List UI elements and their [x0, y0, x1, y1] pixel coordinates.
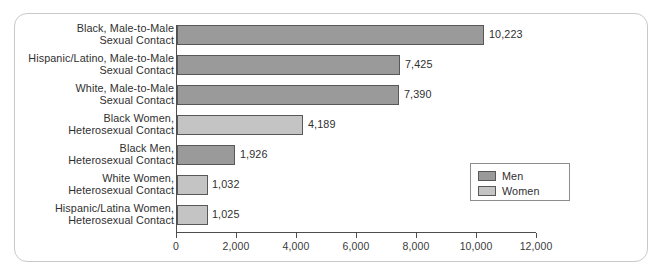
x-tick-label-0: 0: [173, 240, 179, 252]
bar-value-6: 1,025: [212, 208, 240, 220]
legend-item-women[interactable]: Women: [478, 184, 540, 198]
bar-row: Black, Male-to-Male Sexual Contact 10,22…: [0, 22, 663, 49]
bar-row: Hispanic/Latina Women, Heterosexual Cont…: [0, 202, 663, 229]
x-tick-label-6: 12,000: [520, 240, 553, 252]
bar-0[interactable]: [177, 25, 484, 45]
x-tick-2: [296, 233, 297, 238]
bar-value-1: 7,425: [405, 58, 433, 70]
plot-area: 0 2,000 4,000 6,000 8,000 10,000 12,000 …: [0, 0, 663, 277]
bar-row: Black Women, Heterosexual Contact 4,189: [0, 112, 663, 139]
x-tick-0: [176, 233, 177, 238]
category-label-3: Black Women, Heterosexual Contact: [0, 112, 174, 137]
bar-2[interactable]: [177, 85, 399, 105]
x-tick-label-2: 4,000: [283, 240, 310, 252]
category-label-6: Hispanic/Latina Women, Heterosexual Cont…: [0, 202, 174, 227]
bar-5[interactable]: [177, 175, 208, 195]
x-tick-3: [356, 233, 357, 238]
x-tick-6: [536, 233, 537, 238]
bar-value-5: 1,032: [212, 178, 240, 190]
legend-label-women: Women: [502, 185, 540, 197]
bar-4[interactable]: [177, 145, 235, 165]
bar-row: White, Male-to-Male Sexual Contact 7,390: [0, 82, 663, 109]
bar-value-4: 1,926: [240, 148, 268, 160]
bar-chart-figure: 0 2,000 4,000 6,000 8,000 10,000 12,000 …: [0, 0, 663, 277]
x-tick-4: [416, 233, 417, 238]
x-tick-5: [476, 233, 477, 238]
x-tick-1: [236, 233, 237, 238]
bar-value-0: 10,223: [489, 28, 523, 40]
legend-label-men: Men: [502, 170, 523, 182]
bar-value-2: 7,390: [404, 88, 432, 100]
bar-1[interactable]: [177, 55, 400, 75]
x-tick-label-4: 8,000: [403, 240, 430, 252]
bar-3[interactable]: [177, 115, 303, 135]
legend-swatch-men-icon: [478, 171, 496, 181]
legend-item-men[interactable]: Men: [478, 169, 523, 183]
bar-value-3: 4,189: [308, 118, 336, 130]
bar-row: Hispanic/Latino, Male-to-Male Sexual Con…: [0, 52, 663, 79]
category-label-2: White, Male-to-Male Sexual Contact: [0, 82, 174, 107]
bar-6[interactable]: [177, 205, 208, 225]
chart-legend: Men Women: [470, 163, 570, 201]
x-tick-label-3: 6,000: [343, 240, 370, 252]
x-tick-label-5: 10,000: [460, 240, 493, 252]
x-tick-label-1: 2,000: [223, 240, 250, 252]
category-label-4: Black Men, Heterosexual Contact: [0, 142, 174, 167]
category-label-0: Black, Male-to-Male Sexual Contact: [0, 22, 174, 47]
legend-swatch-women-icon: [478, 186, 496, 196]
category-label-5: White Women, Heterosexual Contact: [0, 172, 174, 197]
category-label-1: Hispanic/Latino, Male-to-Male Sexual Con…: [0, 52, 174, 77]
